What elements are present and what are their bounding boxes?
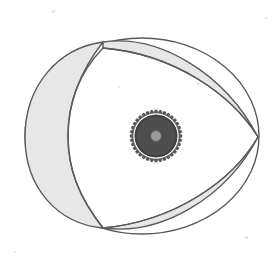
gear-hub [151, 131, 161, 141]
figure-canvas [0, 0, 276, 272]
rotor-diagram-svg [0, 0, 276, 272]
gear-tooth [154, 159, 158, 162]
gear-tooth [130, 134, 133, 138]
gear-tooth [154, 110, 158, 113]
gear-tooth [179, 134, 182, 138]
